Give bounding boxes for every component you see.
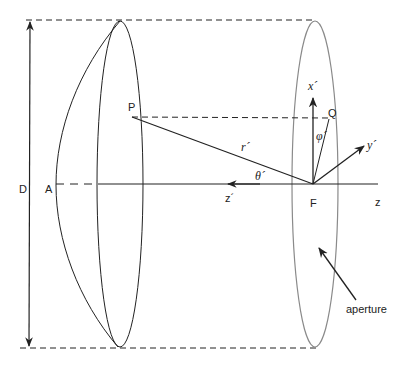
aperture-pointer [319,248,356,300]
point-p-label: P [128,101,135,113]
vertex-label: A [45,183,53,195]
diameter-arrow [29,22,30,346]
z-prime-label: z´ [225,192,234,204]
reflector-diagram: D A z´ z F P r´ θ´ x´ Q φ´ y´ aperture [0,0,404,371]
r-prime-line [132,117,313,184]
aperture-label: aperture [346,303,387,315]
diameter-label: D [19,183,27,195]
theta-prime-label: θ´ [255,169,266,183]
point-q-label: Q [328,107,337,119]
z-label: z [375,196,381,208]
phi-prime-label: φ´ [316,129,328,143]
y-prime-label: y´ [366,138,377,152]
r-prime-label: r´ [241,140,251,154]
p-q-dashed [132,117,330,118]
x-prime-label: x´ [307,79,318,93]
focus-label: F [310,197,317,209]
